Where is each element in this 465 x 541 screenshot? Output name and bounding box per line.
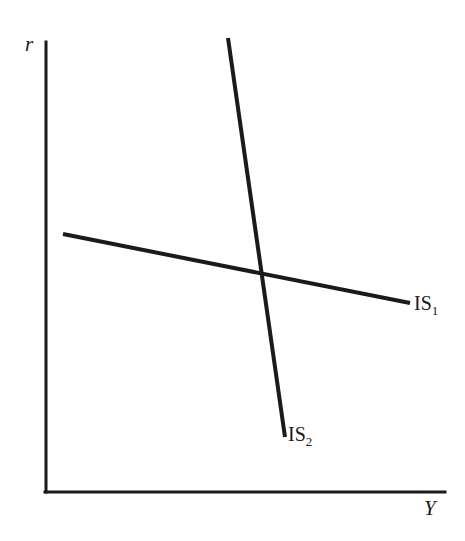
is1-label-subscript: 1 bbox=[432, 303, 439, 318]
y-axis-label: r bbox=[25, 34, 33, 55]
is2-label-text: IS bbox=[288, 423, 306, 445]
x-axis-label: Y bbox=[424, 498, 436, 519]
plot-canvas bbox=[0, 0, 465, 541]
is-curve-diagram: r Y IS1 IS2 bbox=[0, 0, 465, 541]
is1-label-text: IS bbox=[414, 292, 432, 314]
is2-curve-line bbox=[228, 38, 285, 437]
is2-label-subscript: 2 bbox=[306, 434, 313, 449]
is1-curve-line bbox=[63, 234, 410, 303]
is1-curve-label: IS1 bbox=[414, 293, 438, 317]
is2-curve-label: IS2 bbox=[288, 424, 312, 448]
